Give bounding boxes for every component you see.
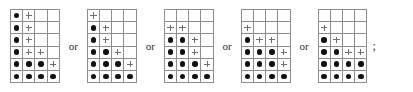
cell-r4-c2-plus: [23, 47, 35, 59]
cell-r2-c3-empty: [266, 22, 278, 34]
cell-r2-c1-dot: [11, 22, 23, 34]
cell-r5-c3-dot: [343, 59, 355, 71]
cell-r1-c1-empty: [165, 10, 177, 22]
diagram-grid: [10, 9, 60, 83]
cell-r1-c4-empty: [48, 10, 60, 22]
cell-r6-c3-dot: [343, 71, 355, 83]
cell-r4-c4-empty: [201, 47, 213, 59]
cell-r3-c4-empty: [48, 34, 60, 46]
cell-r6-c4-dot: [201, 71, 213, 83]
cell-r1-c2-empty: [100, 10, 112, 22]
cell-r6-c2-dot: [100, 71, 112, 83]
cell-r3-c3-plus: [266, 34, 278, 46]
diagram-grid: [87, 9, 137, 83]
cell-r5-c1-dot: [88, 59, 100, 71]
cell-r2-c1-plus: [242, 22, 254, 34]
cell-r3-c4-empty: [124, 34, 136, 46]
cell-r2-c2-empty: [254, 22, 266, 34]
cell-r2-c4-empty: [48, 22, 60, 34]
cell-r5-c4-plus: [48, 59, 60, 71]
semicolon-terminator: ;: [367, 40, 375, 52]
cell-r2-c2-plus: [177, 22, 189, 34]
cell-r5-c2-dot: [254, 59, 266, 71]
cell-r2-c3-empty: [189, 22, 201, 34]
young-diagram-4: [241, 9, 291, 83]
cell-r5-c2-dot: [23, 59, 35, 71]
cell-r2-c3-empty: [35, 22, 47, 34]
cell-r2-c4-empty: [201, 22, 213, 34]
cell-r4-c3-plus: [189, 47, 201, 59]
cell-r1-c3-empty: [266, 10, 278, 22]
or-separator: or: [60, 41, 87, 52]
cell-r4-c3-plus: [35, 47, 47, 59]
cell-r5-c1-dot: [165, 59, 177, 71]
cell-r6-c2-dot: [177, 71, 189, 83]
cell-r4-c4-plus: [355, 47, 367, 59]
cell-r1-c4-empty: [355, 10, 367, 22]
cell-r4-c2-dot: [254, 47, 266, 59]
cell-r6-c2-dot: [331, 71, 343, 83]
cell-r6-c1-dot: [88, 71, 100, 83]
cell-r6-c3-dot: [266, 71, 278, 83]
cell-r6-c1-dot: [319, 71, 331, 83]
young-diagram-3: [164, 9, 214, 83]
cell-r2-c3-empty: [343, 22, 355, 34]
cell-r5-c3-dot: [266, 59, 278, 71]
cell-r2-c4-empty: [355, 22, 367, 34]
diagram-grid: [318, 9, 368, 83]
young-diagram-2: [87, 9, 137, 83]
cell-r3-c2-plus: [254, 34, 266, 46]
cell-r1-c3-empty: [112, 10, 124, 22]
cell-r2-c1-plus: [165, 22, 177, 34]
diagram-grid: [164, 9, 214, 83]
cell-r5-c4-dot: [355, 59, 367, 71]
cell-r5-c2-dot: [331, 59, 343, 71]
cell-r3-c1-dot: [11, 34, 23, 46]
cell-r3-c1-dot: [242, 34, 254, 46]
cell-r6-c3-dot: [35, 71, 47, 83]
cell-r6-c2-dot: [23, 71, 35, 83]
cell-r6-c1-dot: [242, 71, 254, 83]
cell-r4-c1-dot: [165, 47, 177, 59]
cell-r6-c3-dot: [189, 71, 201, 83]
cell-r1-c4-empty: [124, 10, 136, 22]
cell-r6-c1-dot: [11, 71, 23, 83]
cell-r1-c2-empty: [331, 10, 343, 22]
cell-r4-c4-empty: [48, 47, 60, 59]
cell-r3-c3-plus: [189, 34, 201, 46]
cell-r4-c1-dot: [319, 47, 331, 59]
cell-r5-c1-dot: [242, 59, 254, 71]
cell-r2-c2-plus: [100, 22, 112, 34]
cell-r6-c4-dot: [355, 71, 367, 83]
cell-r5-c1-dot: [11, 59, 23, 71]
diagram-sequence: orororor;: [0, 0, 413, 92]
cell-r3-c1-dot: [319, 34, 331, 46]
cell-r1-c1-empty: [242, 10, 254, 22]
cell-r5-c3-dot: [112, 59, 124, 71]
cell-r4-c1-dot: [242, 47, 254, 59]
cell-r3-c4-empty: [278, 34, 290, 46]
cell-r3-c3-empty: [112, 34, 124, 46]
cell-r4-c1-dot: [88, 47, 100, 59]
cell-r2-c1-dot: [88, 22, 100, 34]
cell-r5-c4-plus: [124, 59, 136, 71]
or-separator: or: [214, 41, 241, 52]
cell-r3-c1-dot: [88, 34, 100, 46]
cell-r6-c2-dot: [254, 71, 266, 83]
cell-r4-c2-dot: [100, 47, 112, 59]
cell-r2-c2-plus: [23, 22, 35, 34]
cell-r5-c4-plus: [278, 59, 290, 71]
cell-r1-c3-empty: [35, 10, 47, 22]
cell-r1-c2-empty: [254, 10, 266, 22]
cell-r3-c3-empty: [35, 34, 47, 46]
cell-r5-c4-plus: [201, 59, 213, 71]
cell-r6-c4-dot: [278, 71, 290, 83]
diagram-grid: [241, 9, 291, 83]
cell-r4-c2-dot: [331, 47, 343, 59]
cell-r2-c2-empty: [331, 22, 343, 34]
cell-r3-c2-plus: [23, 34, 35, 46]
cell-r6-c4-dot: [124, 71, 136, 83]
cell-r5-c2-dot: [177, 59, 189, 71]
cell-r5-c2-dot: [100, 59, 112, 71]
cell-r1-c1-empty: [319, 10, 331, 22]
